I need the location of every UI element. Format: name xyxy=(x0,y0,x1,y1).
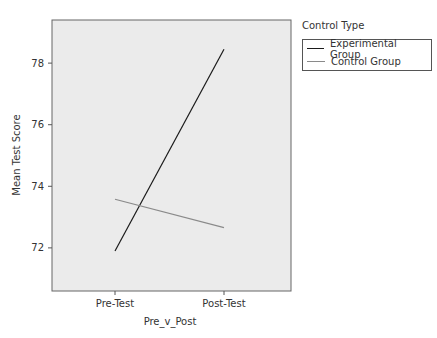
plot-area xyxy=(52,20,291,291)
legend-title: Control Type xyxy=(302,20,432,31)
y-axis-label: Mean Test Score xyxy=(11,114,22,195)
x-axis-label: Pre_v_Post xyxy=(144,316,197,328)
y-tick-label: 76 xyxy=(31,119,44,130)
legend-box: Experimental Group Control Group xyxy=(302,39,432,71)
legend-label: Control Group xyxy=(331,56,401,67)
line-swatch-icon xyxy=(307,48,324,49)
legend: Control Type Experimental Group Control … xyxy=(302,20,432,71)
x-axis: Pre-TestPost-Test xyxy=(96,291,246,309)
y-tick-label: 78 xyxy=(31,58,44,69)
x-tick-label: Post-Test xyxy=(202,298,245,309)
y-tick-label: 74 xyxy=(31,181,44,192)
legend-item-experimental: Experimental Group xyxy=(307,42,425,55)
x-tick-label: Pre-Test xyxy=(96,298,134,309)
line-swatch-icon xyxy=(307,61,325,62)
y-tick-label: 72 xyxy=(31,242,44,253)
y-axis: 72747678 xyxy=(31,58,52,254)
